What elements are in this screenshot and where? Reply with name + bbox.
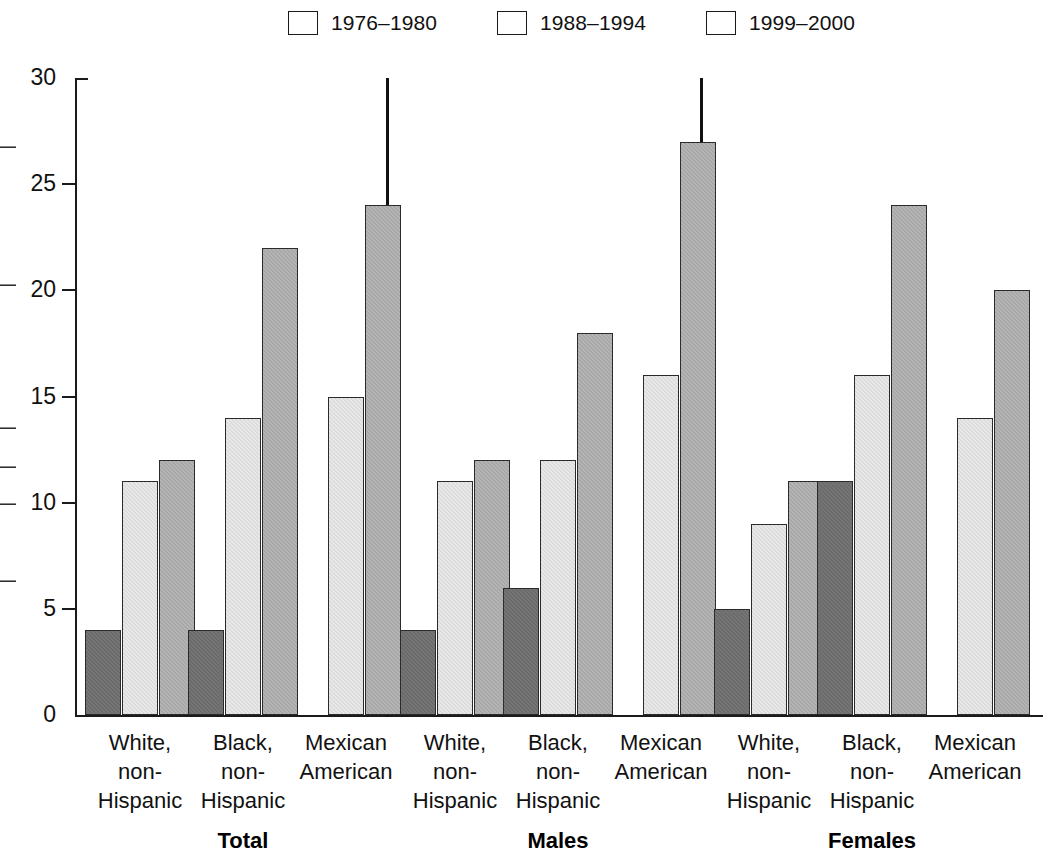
bar xyxy=(503,588,539,715)
bar xyxy=(540,460,576,715)
bar xyxy=(751,524,787,715)
bar xyxy=(817,481,853,715)
bar xyxy=(262,248,298,715)
panel-label: Total xyxy=(133,829,353,853)
bar xyxy=(328,397,364,716)
bar-chart: 302520151050 White, non- HispanicBlack, … xyxy=(0,0,1043,865)
bar xyxy=(122,481,158,715)
panel-label: Males xyxy=(448,829,668,853)
bar xyxy=(714,609,750,715)
panel-label: Females xyxy=(762,829,982,853)
bar xyxy=(365,205,401,715)
bar xyxy=(225,418,261,715)
bar xyxy=(188,630,224,715)
bar xyxy=(994,290,1030,715)
bar xyxy=(891,205,927,715)
bar xyxy=(400,630,436,715)
bar xyxy=(85,630,121,715)
bar xyxy=(854,375,890,715)
bar xyxy=(643,375,679,715)
bar xyxy=(577,333,613,715)
bar xyxy=(437,481,473,715)
category-label: Mexican American xyxy=(900,728,1043,786)
bar xyxy=(680,142,716,715)
bar xyxy=(957,418,993,715)
